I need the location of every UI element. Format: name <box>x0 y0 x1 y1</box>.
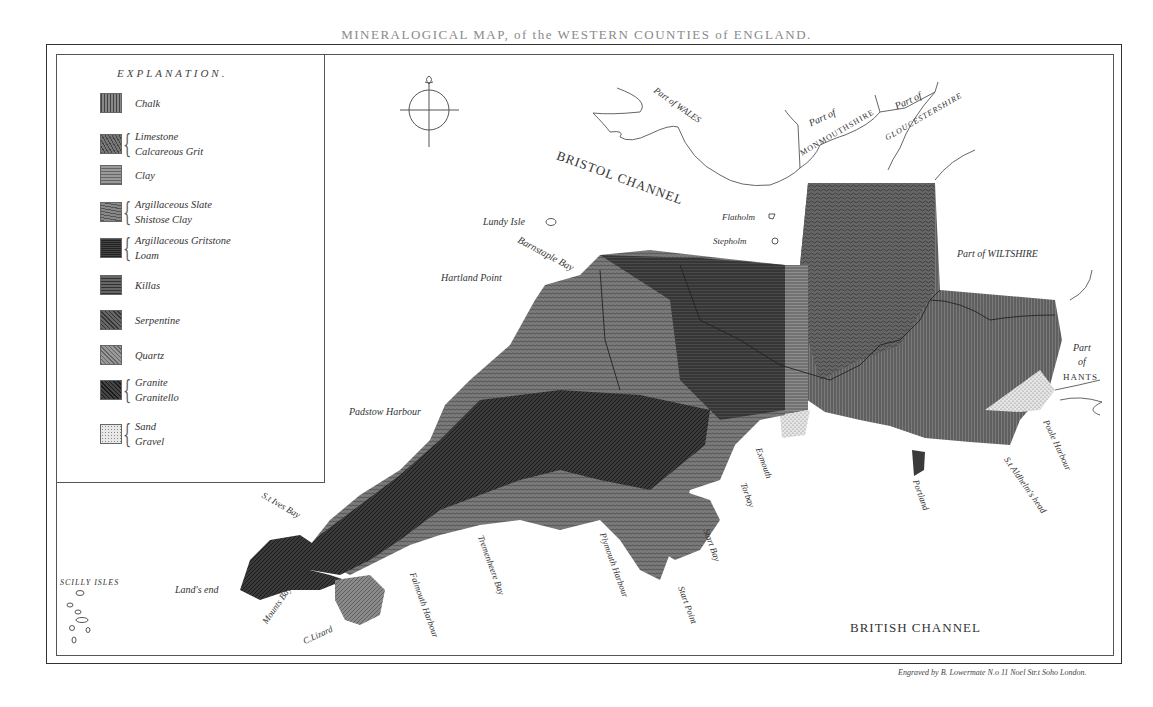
chalk-swatch <box>100 93 122 113</box>
geology-regions <box>240 183 1062 625</box>
label-hants-2: of <box>1078 356 1086 367</box>
label-lundy: Lundy Isle <box>483 216 525 227</box>
legend-label: Argillaceous Slate <box>135 197 212 212</box>
legend-label: Shistose Clay <box>135 212 212 227</box>
legend-label: Granitello <box>135 390 179 405</box>
legend-label: Killas <box>135 278 160 293</box>
legend-label: Argillaceous Gritstone <box>135 233 231 248</box>
slate-swatch <box>100 202 122 222</box>
granite-swatch <box>100 380 122 400</box>
label-scilly: SCILLY ISLES <box>60 578 119 587</box>
limestone-swatch <box>100 134 122 154</box>
label-british-channel: BRITISH CHANNEL <box>850 620 981 636</box>
quartz-swatch <box>100 345 122 365</box>
legend-label: Chalk <box>135 96 160 111</box>
legend-label: Gravel <box>135 434 164 449</box>
serpentine-swatch <box>100 310 122 330</box>
legend-item-limestone: { Limestone Calcareous Grit <box>100 129 203 159</box>
legend-label: Loam <box>135 248 231 263</box>
legend-item-granite: { Granite Granitello <box>100 375 179 405</box>
legend-label: Quartz <box>135 348 164 363</box>
gritstone-swatch <box>100 238 122 258</box>
killas-swatch <box>100 275 122 295</box>
clay-swatch <box>100 165 122 185</box>
legend-label: Calcareous Grit <box>135 144 203 159</box>
legend-title: EXPLANATION. <box>117 67 227 79</box>
label-hants-1: Part <box>1073 342 1091 353</box>
label-padstow: Padstow Harbour <box>349 406 421 417</box>
legend-label: Limestone <box>135 129 203 144</box>
label-stepholm: Stepholm <box>713 236 747 246</box>
sand-swatch <box>100 424 122 444</box>
legend-item-argillaceous-slate: { Argillaceous Slate Shistose Clay <box>100 197 212 227</box>
label-lands-end: Land's end <box>175 584 219 595</box>
legend-label: Clay <box>135 168 155 183</box>
label-flatholm: Flatholm <box>722 212 755 222</box>
legend-label: Sand <box>135 419 164 434</box>
legend-item-serpentine: Serpentine <box>100 310 180 330</box>
legend-item-chalk: Chalk <box>100 93 160 113</box>
compass-rose-icon <box>400 76 459 147</box>
label-hartland: Hartland Point <box>441 272 502 283</box>
label-wiltshire: Part of WILTSHIRE <box>957 248 1038 259</box>
legend-item-gritstone: { Argillaceous Gritstone Loam <box>100 233 231 263</box>
label-hants-3: HANTS <box>1063 372 1098 382</box>
engraver-credit: Engraved by B. Lowermate N.o 11 Noel Str… <box>898 668 1087 677</box>
legend-item-killas: Killas <box>100 275 160 295</box>
legend-item-clay: Clay <box>100 165 155 185</box>
legend-label: Granite <box>135 375 179 390</box>
legend-item-sand: { Sand Gravel <box>100 419 164 449</box>
legend-label: Serpentine <box>135 313 180 328</box>
legend-panel: EXPLANATION. Chalk { Limestone Calcareou… <box>57 55 325 483</box>
legend-item-quartz: Quartz <box>100 345 164 365</box>
